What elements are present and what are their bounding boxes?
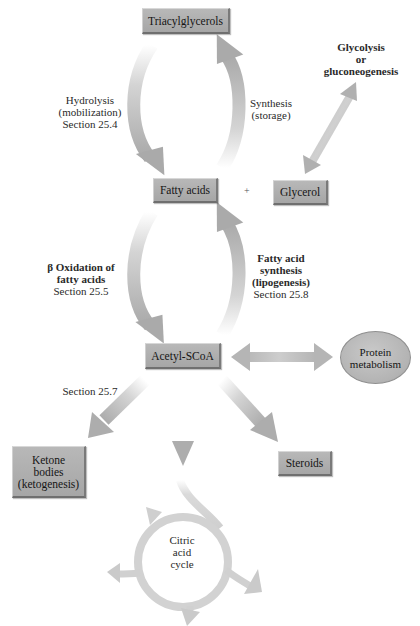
node-protein-metabolism: Protein metabolism	[340, 331, 411, 384]
citric-line-3: cycle	[162, 558, 202, 570]
citric-line-2: acid	[162, 546, 202, 558]
label-synthesis: Synthesis (storage)	[246, 97, 296, 121]
acetyl-steroids-arrow	[222, 380, 278, 442]
synthesis-arrow	[207, 28, 243, 168]
node-steroids: Steroids	[278, 451, 332, 476]
section-257-text: Section 25.7	[60, 385, 120, 397]
node-acetyl-scoa: Acetyl-SCoA	[145, 343, 221, 369]
beta-oxidation-line-1: β Oxidation of	[38, 261, 124, 273]
beta-oxidation-line-3: Section 25.5	[38, 285, 124, 297]
fas-line-1: Fatty acid	[246, 252, 316, 264]
node-steroids-label: Steroids	[286, 457, 324, 469]
glycolysis-line-2: or	[318, 53, 404, 65]
ketone-line-1: Ketone	[18, 454, 79, 466]
label-hydrolysis: Hydrolysis (mobilization) Section 25.4	[55, 94, 125, 130]
ketone-line-3: (ketogenesis)	[18, 478, 79, 490]
node-fatty-acids-label: Fatty acids	[160, 184, 210, 196]
acetyl-protein-arrow	[231, 343, 333, 371]
lipid-metabolism-diagram: Triacylglycerols Fatty acids + Glycerol …	[0, 0, 420, 626]
synthesis-line-2: (storage)	[246, 109, 296, 121]
label-section-25-7: Section 25.7	[60, 385, 120, 397]
beta-oxidation-line-2: fatty acids	[38, 273, 124, 285]
node-triacylglycerols: Triacylglycerols	[142, 8, 230, 34]
glycolysis-line-3: gluconeogenesis	[318, 65, 404, 77]
fas-line-4: Section 25.8	[246, 288, 316, 300]
fas-line-2: synthesis	[246, 264, 316, 276]
protein-metabolism-line-2: metabolism	[350, 358, 401, 370]
synthesis-line-1: Synthesis	[246, 97, 296, 109]
node-citric-acid-cycle: Citric acid cycle	[162, 534, 202, 570]
glycerol-glycolysis-arrow	[303, 82, 357, 174]
glycolysis-line-1: Glycolysis	[318, 41, 404, 53]
hydrolysis-line-3: Section 25.4	[55, 118, 125, 130]
node-ketone-bodies: Ketone bodies (ketogenesis)	[12, 446, 86, 498]
node-acetyl-scoa-label: Acetyl-SCoA	[151, 350, 214, 362]
node-fatty-acids: Fatty acids	[153, 178, 218, 203]
hydrolysis-arrow	[134, 45, 170, 181]
node-glycerol: Glycerol	[273, 180, 328, 205]
fas-line-3: (lipogenesis)	[246, 276, 316, 288]
plus-sign: +	[244, 185, 250, 196]
label-fatty-acid-synthesis: Fatty acid synthesis (lipogenesis) Secti…	[246, 252, 316, 300]
label-glycolysis: Glycolysis or gluconeogenesis	[318, 41, 404, 77]
label-beta-oxidation: β Oxidation of fatty acids Section 25.5	[38, 261, 124, 297]
fatty-acid-synthesis-arrow	[207, 196, 243, 335]
protein-metabolism-line-1: Protein	[350, 346, 401, 358]
hydrolysis-line-2: (mobilization)	[55, 106, 125, 118]
ketone-line-2: bodies	[18, 466, 79, 478]
hydrolysis-line-1: Hydrolysis	[55, 94, 125, 106]
node-triacylglycerols-label: Triacylglycerols	[148, 15, 223, 27]
citric-line-1: Citric	[162, 534, 202, 546]
beta-oxidation-arrow	[134, 212, 170, 349]
node-glycerol-label: Glycerol	[280, 186, 320, 198]
acetyl-citric-arrow	[172, 376, 194, 466]
